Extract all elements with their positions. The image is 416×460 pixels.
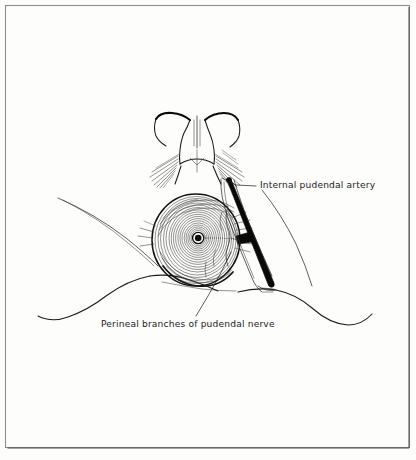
illustration-canvas: Internal pudendal artery Perineal branch… xyxy=(0,0,416,460)
label-perineal-branches-pudendal-nerve: Perineal branches of pudendal nerve xyxy=(101,319,275,329)
anal-orifice xyxy=(195,235,202,242)
anatomical-figure: Internal pudendal artery Perineal branch… xyxy=(0,0,416,460)
label-internal-pudendal-artery: Internal pudendal artery xyxy=(260,180,376,190)
artery-distal-end xyxy=(269,282,275,288)
